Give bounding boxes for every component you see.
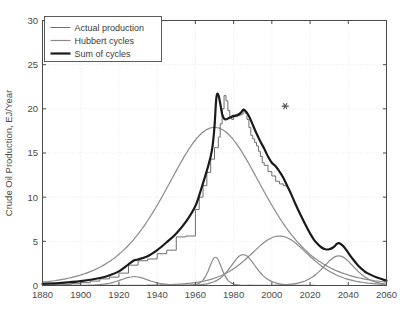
y-tick-label: 20 [27,103,38,114]
x-tick-label: 1940 [147,289,168,300]
y-tick-label: 30 [27,15,38,26]
y-tick-label: 0 [33,280,38,291]
x-tick-label: 2020 [299,289,320,300]
chart-container: 1880190019201940196019802000202020402060… [0,0,404,312]
legend-label-1[interactable]: Hubbert cycles [75,36,135,46]
legend-label-0[interactable]: Actual production [75,23,145,33]
x-tick-label: 1960 [185,289,206,300]
y-tick-label: 25 [27,59,38,70]
y-axis-title: Crude Oil Production, EJ/Year [3,90,14,216]
y-tick-label: 10 [27,192,38,203]
chart-legend: Actual productionHubbert cyclesSum of cy… [45,17,162,62]
chart-plot: 1880190019201940196019802000202020402060… [0,0,404,312]
x-tick-label: 1920 [108,289,129,300]
legend-label-2[interactable]: Sum of cycles [75,49,132,59]
x-tick-label: 2000 [261,289,282,300]
y-tick-label: 5 [33,236,38,247]
x-tick-label: 2040 [338,289,359,300]
x-tick-label: 1980 [223,289,244,300]
y-tick-label: 15 [27,147,38,158]
x-tick-label: 1900 [70,289,91,300]
y-axis-title-text: Crude Oil Production, EJ/Year [3,90,14,216]
x-tick-label: 2060 [376,289,397,300]
